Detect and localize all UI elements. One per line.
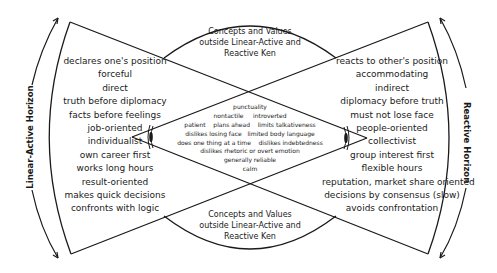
concept-line: outside Linear-Active and <box>185 220 315 231</box>
trait: forceful <box>50 68 180 81</box>
trait: must not lose face <box>322 109 462 122</box>
trait: diplomacy before truth <box>322 95 462 108</box>
trait: group interest first <box>322 149 462 162</box>
shared-traits: punctuality nontactile introverted patie… <box>175 103 325 174</box>
bottom-concept-text: Concepts and Values outside Linear-Activ… <box>185 209 315 242</box>
shared-row: dislikes losing face limited body langua… <box>175 130 325 139</box>
shared-row: nontactile introverted <box>175 112 325 121</box>
concept-line: Concepts and Values <box>185 26 315 37</box>
shared-row: dislikes rhetoric or overt emotion <box>175 147 325 156</box>
trait: collectivist <box>322 135 462 148</box>
trait: accommodating <box>322 68 462 81</box>
trait: dislikes indebtedness <box>259 139 323 146</box>
trait: decisions by consensus (slow) <box>322 189 462 202</box>
trait: nontactile <box>214 112 244 119</box>
reactive-horizon-label: Reactive Horizon <box>462 102 472 172</box>
concept-line: outside Linear-Active and <box>185 37 315 48</box>
trait: dislikes losing face <box>185 130 241 137</box>
trait: does one thing at a time <box>177 139 251 146</box>
trait: facts before feelings <box>50 109 180 122</box>
concept-line: Reactive Ken <box>185 231 315 242</box>
trait: makes quick decisions <box>50 189 180 202</box>
shared-row: calm <box>175 165 325 174</box>
concept-line: Concepts and Values <box>185 209 315 220</box>
trait: indirect <box>322 82 462 95</box>
trait: reacts to other's position <box>322 55 462 68</box>
trait: reputation, market share oriented <box>322 176 462 189</box>
reactive-traits: reacts to other's position accommodating… <box>322 55 462 216</box>
trait: result-oriented <box>50 176 180 189</box>
trait: direct <box>50 82 180 95</box>
trait: plans ahead <box>213 121 250 128</box>
trait: limits talkativeness <box>258 121 316 128</box>
trait: flexible hours <box>322 162 462 175</box>
linear-active-horizon-label: Linear-Active Horizon <box>25 82 35 192</box>
trait: own career first <box>50 149 180 162</box>
trait: confronts with logic <box>50 202 180 215</box>
shared-row: patient plans ahead limits talkativeness <box>175 121 325 130</box>
trait: limited body language <box>247 130 314 137</box>
top-concept-text: Concepts and Values outside Linear-Activ… <box>185 26 315 59</box>
concept-line: Reactive Ken <box>185 48 315 59</box>
trait: introverted <box>253 112 286 119</box>
trait: declares one's position <box>50 55 180 68</box>
trait: works long hours <box>50 162 180 175</box>
shared-row: punctuality <box>175 103 325 112</box>
linear-active-traits: declares one's position forceful direct … <box>50 55 180 216</box>
trait: job-oriented <box>50 122 180 135</box>
trait: people-oriented <box>322 122 462 135</box>
shared-row: does one thing at a time dislikes indebt… <box>175 139 325 148</box>
shared-row: generally reliable <box>175 156 325 165</box>
trait: dislikes rhetoric or overt emotion <box>200 147 300 154</box>
trait: patient <box>184 121 205 128</box>
trait: avoids confrontation <box>322 202 462 215</box>
trait: truth before diplomacy <box>50 95 180 108</box>
trait: punctuality <box>233 103 267 110</box>
trait: calm <box>243 165 258 172</box>
trait: individualist <box>50 135 180 148</box>
trait: generally reliable <box>224 156 276 163</box>
